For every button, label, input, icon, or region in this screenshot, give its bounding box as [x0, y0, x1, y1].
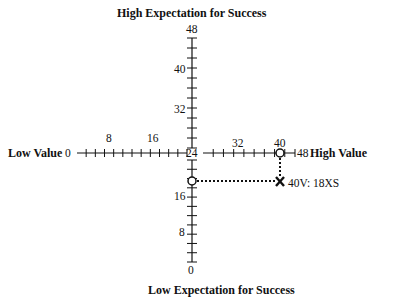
v-tick-label-40: 40	[174, 64, 186, 76]
h-tick-label-40: 40	[274, 138, 286, 150]
h-tick-label-48: 48	[297, 148, 309, 160]
value-circle-marker	[276, 149, 284, 157]
bottom-axis-title: Low Expectation for Success	[148, 284, 295, 296]
v-tick-label-32: 32	[174, 104, 186, 116]
top-axis-title: High Expectation for Success	[117, 7, 266, 19]
h-tick-label-32: 32	[232, 138, 244, 150]
v-tick-label-8: 8	[179, 227, 185, 239]
expectation-circle-marker	[188, 177, 196, 185]
v-tick-label-0: 0	[188, 265, 194, 277]
v-tick-label-48: 48	[186, 24, 198, 36]
h-tick-label-8: 8	[106, 133, 112, 145]
point-label: 40V: 18XS	[288, 178, 339, 190]
h-tick-label-16: 16	[147, 133, 159, 145]
v-tick-label-16: 16	[174, 191, 186, 203]
h-tick-label-24: 24	[186, 148, 198, 160]
right-axis-title: High Value	[310, 147, 367, 159]
x-mark-icon	[276, 177, 284, 186]
left-axis-title: Low Value	[8, 147, 62, 159]
h-tick-label-0: 0	[65, 148, 71, 160]
